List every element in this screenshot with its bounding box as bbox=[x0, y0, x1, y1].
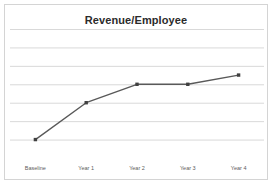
data-point-markers-group bbox=[34, 73, 241, 141]
gridlines-group bbox=[10, 30, 264, 159]
x-tick-label: Year 4 bbox=[209, 165, 269, 171]
data-point-marker bbox=[34, 138, 37, 141]
chart-title: Revenue/Employee bbox=[5, 14, 267, 26]
x-axis-labels: BaselineYear 1Year 2Year 3Year 4 bbox=[10, 165, 264, 177]
data-point-marker bbox=[237, 73, 240, 76]
data-point-marker bbox=[85, 101, 88, 104]
line-chart-svg bbox=[10, 29, 264, 158]
data-point-marker bbox=[186, 83, 189, 86]
chart-card: Revenue/Employee BaselineYear 1Year 2Yea… bbox=[4, 4, 268, 180]
plot-area bbox=[10, 29, 264, 158]
data-point-marker bbox=[135, 83, 138, 86]
